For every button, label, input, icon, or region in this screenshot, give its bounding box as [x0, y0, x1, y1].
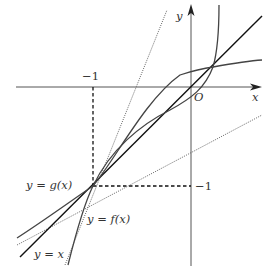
curve-f — [68, 5, 219, 265]
y-tick-minus-1-label: −1 — [195, 179, 212, 193]
label-f: y = f(x) — [86, 212, 130, 226]
x-tick-minus-1-label: −1 — [82, 69, 99, 83]
label-identity: y = x — [33, 247, 64, 261]
y-axis-label: y — [175, 9, 183, 23]
curve-identity — [20, 16, 262, 257]
tangent-f-at-minus-1 — [65, 10, 167, 265]
y-axis — [188, 4, 195, 266]
function-diagram: x y O −1 −1 y = g(x) y = f(x) y = x — [0, 0, 264, 268]
label-g: y = g(x) — [25, 178, 72, 192]
x-axis-label: x — [252, 90, 259, 104]
x-axis — [16, 84, 262, 91]
origin-label: O — [194, 90, 204, 104]
